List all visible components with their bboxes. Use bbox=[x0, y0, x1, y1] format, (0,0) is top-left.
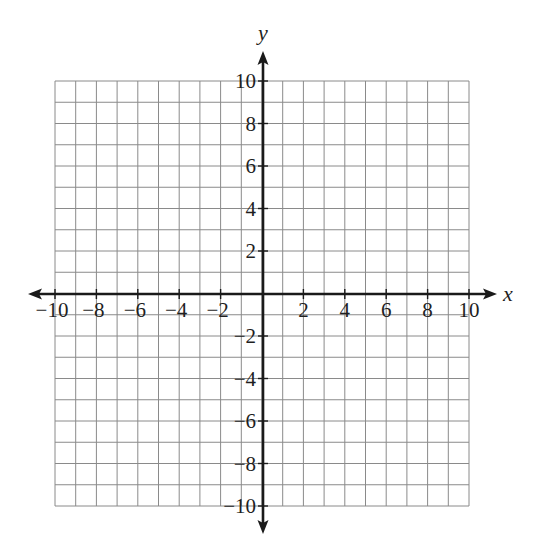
x-tick-label: 6 bbox=[381, 298, 392, 322]
y-tick-label: −2 bbox=[234, 324, 256, 348]
y-tick-label: 10 bbox=[235, 69, 256, 93]
x-tick-label: 2 bbox=[298, 298, 309, 322]
x-tick-label: −4 bbox=[165, 298, 188, 322]
x-tick-label: 10 bbox=[459, 298, 480, 322]
y-tick-label: 8 bbox=[246, 112, 257, 136]
y-tick-label: −10 bbox=[223, 494, 256, 518]
y-tick-label: 6 bbox=[246, 154, 257, 178]
x-tick-label: −8 bbox=[82, 298, 104, 322]
x-tick-label: 8 bbox=[422, 298, 433, 322]
x-axis-label: x bbox=[502, 281, 513, 306]
x-tick-label: −6 bbox=[124, 298, 146, 322]
y-tick-label: −6 bbox=[234, 409, 256, 433]
y-tick-label: −8 bbox=[234, 452, 256, 476]
y-axis-label: y bbox=[256, 20, 268, 45]
y-tick-label: 2 bbox=[246, 239, 257, 263]
x-tick-label: −2 bbox=[206, 298, 228, 322]
y-tick-label: 4 bbox=[246, 197, 257, 221]
y-tick-label: −4 bbox=[234, 367, 257, 391]
x-tick-label: 4 bbox=[340, 298, 351, 322]
x-tick-label: −10 bbox=[36, 298, 69, 322]
coordinate-plane: −10−8−6−4−2246810108642−2−4−6−8−10 x y bbox=[0, 0, 540, 550]
